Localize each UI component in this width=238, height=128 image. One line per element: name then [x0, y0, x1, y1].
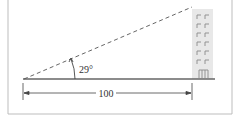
angle-label: 29° — [79, 64, 93, 75]
distance-label: 100 — [99, 88, 114, 99]
building-icon — [192, 9, 213, 79]
diagram-canvas: 29° 100 — [0, 0, 238, 128]
line-of-sight — [24, 7, 192, 79]
